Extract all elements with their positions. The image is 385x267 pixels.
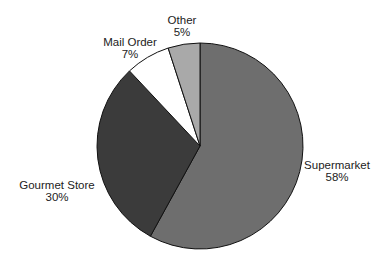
label-mail-order-name: Mail Order bbox=[103, 36, 157, 48]
pie-slices bbox=[97, 43, 303, 249]
label-other-name: Other bbox=[168, 14, 197, 26]
label-supermarket-pct: 58% bbox=[325, 171, 348, 183]
label-gourmet-store-name: Gourmet Store bbox=[19, 179, 94, 191]
label-supermarket-name: Supermarket bbox=[304, 159, 371, 171]
label-gourmet-store-pct: 30% bbox=[45, 191, 68, 203]
pie-chart: Supermarket 58% Gourmet Store 30% Mail O… bbox=[0, 0, 385, 267]
label-mail-order-pct: 7% bbox=[122, 48, 139, 60]
label-other-pct: 5% bbox=[174, 26, 191, 38]
